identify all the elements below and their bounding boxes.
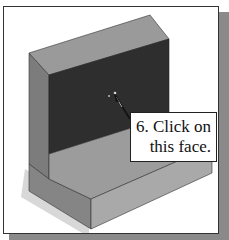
callout-line-1: 6. Click on xyxy=(135,117,211,137)
illustration-frame: 6. Click on this face. xyxy=(3,6,219,234)
instruction-callout: 6. Click on this face. xyxy=(130,112,217,162)
callout-line-2: this face. xyxy=(135,137,211,157)
